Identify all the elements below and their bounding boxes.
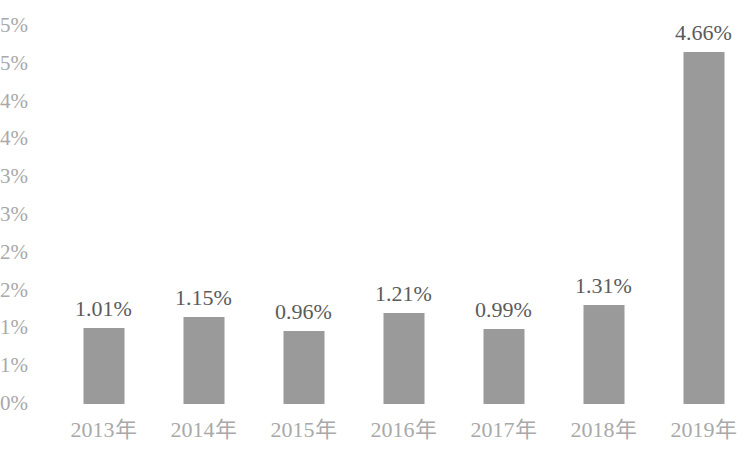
x-axis: 2013年2014年2015年2016年2017年2018年2019年 [56, 404, 756, 449]
bar-value-label: 0.99% [475, 299, 532, 321]
bar-value-label: 1.21% [375, 283, 432, 305]
bar[interactable] [383, 313, 424, 404]
bar-value-label: 1.31% [575, 275, 632, 297]
bar[interactable] [683, 52, 724, 404]
y-axis: 5%5%4%4%3%3%2%2%1%1%0% [0, 0, 56, 449]
bar-slot: 0.99% [456, 0, 551, 404]
bar[interactable] [483, 329, 524, 404]
bar[interactable] [83, 328, 124, 404]
y-axis-tick-label: 5% [0, 53, 50, 74]
bar-slot: 1.15% [156, 0, 251, 404]
x-axis-tick-label: 2017年 [456, 418, 551, 442]
bar[interactable] [183, 317, 224, 404]
plot-area: 1.01%1.15%0.96%1.21%0.99%1.31%4.66% [56, 0, 756, 404]
bar-value-label: 4.66% [675, 22, 732, 44]
y-axis-tick-label: 3% [0, 204, 50, 225]
bar[interactable] [583, 305, 624, 404]
y-axis-tick-label: 0% [0, 393, 50, 414]
x-axis-tick-label: 2015年 [256, 418, 351, 442]
x-axis-tick-label: 2018年 [556, 418, 651, 442]
bar-slot: 1.21% [356, 0, 451, 404]
bar-slot: 0.96% [256, 0, 351, 404]
bar[interactable] [283, 331, 324, 404]
y-axis-tick-label: 4% [0, 128, 50, 149]
x-axis-tick-label: 2016年 [356, 418, 451, 442]
y-axis-tick-label: 5% [0, 15, 50, 36]
bar-slot: 4.66% [656, 0, 751, 404]
x-axis-tick-label: 2013年 [56, 418, 151, 442]
y-axis-tick-label: 4% [0, 91, 50, 112]
y-axis-tick-label: 2% [0, 242, 50, 263]
bar-value-label: 1.01% [75, 298, 132, 320]
x-axis-tick-label: 2019年 [656, 418, 751, 442]
x-axis-tick-label: 2014年 [156, 418, 251, 442]
bar-value-label: 0.96% [275, 301, 332, 323]
y-axis-tick-label: 1% [0, 355, 50, 376]
y-axis-tick-label: 2% [0, 280, 50, 301]
y-axis-tick-label: 3% [0, 166, 50, 187]
bar-value-label: 1.15% [175, 287, 232, 309]
bar-slot: 1.31% [556, 0, 651, 404]
bar-chart: 5%5%4%4%3%3%2%2%1%1%0% 1.01%1.15%0.96%1.… [0, 0, 756, 449]
y-axis-tick-label: 1% [0, 317, 50, 338]
bar-slot: 1.01% [56, 0, 151, 404]
